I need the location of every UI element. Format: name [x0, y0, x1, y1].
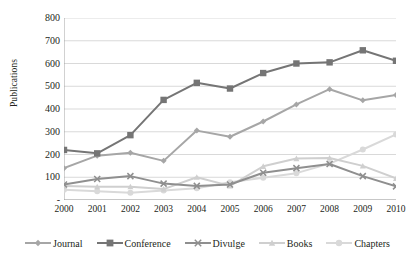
y-axis-title: Publications — [9, 33, 19, 133]
plot-area — [64, 18, 396, 200]
series-journal — [64, 86, 396, 171]
legend-label: Chapters — [353, 238, 390, 249]
y-axis-tick-labels: -100200300400500600700800 — [22, 0, 60, 210]
x-tick-label: 2003 — [154, 203, 173, 215]
legend-item-conference[interactable]: Conference — [97, 237, 171, 249]
x-axis-tick-labels: 2000200120022003200420052006200720082009… — [64, 203, 396, 219]
legend-swatch-square-icon — [97, 237, 123, 249]
series-books — [64, 155, 396, 192]
legend-item-journal[interactable]: Journal — [25, 237, 82, 249]
legend-label: Journal — [52, 238, 82, 249]
x-tick-label: 2007 — [287, 203, 306, 215]
legend-swatch-diamond-icon — [25, 237, 51, 249]
x-tick-label: 2000 — [55, 203, 74, 215]
legend-swatch-x-icon — [185, 237, 211, 249]
y-tick-label: 700 — [22, 36, 60, 46]
x-tick-label: 2002 — [121, 203, 140, 215]
gridlines — [64, 18, 396, 200]
x-tick-label: 2008 — [320, 203, 339, 215]
legend-swatch-triangle-icon — [259, 237, 285, 249]
legend-item-divulge[interactable]: Divulge — [185, 237, 245, 249]
x-tick-label: 2006 — [254, 203, 273, 215]
publications-line-chart: Publications -100200300400500600700800 2… — [0, 0, 415, 264]
chart-legend: JournalConferenceDivulgeBooksChapters — [0, 232, 415, 254]
legend-label: Divulge — [212, 238, 245, 249]
x-tick-label: 2010 — [387, 203, 406, 215]
legend-swatch-circle-icon — [326, 237, 352, 249]
legend-label: Books — [286, 238, 313, 249]
y-tick-label: 600 — [22, 59, 60, 69]
x-tick-label: 2004 — [187, 203, 206, 215]
chart-canvas — [64, 18, 396, 200]
y-tick-label: 300 — [22, 127, 60, 137]
x-tick-label: 2009 — [353, 203, 372, 215]
x-tick-label: 2001 — [88, 203, 107, 215]
legend-item-books[interactable]: Books — [259, 237, 313, 249]
y-tick-label: 200 — [22, 150, 60, 160]
y-tick-label: 500 — [22, 81, 60, 91]
y-tick-label: 100 — [22, 172, 60, 182]
y-tick-label: 400 — [22, 104, 60, 114]
legend-label: Conference — [124, 238, 171, 249]
legend-item-chapters[interactable]: Chapters — [326, 237, 390, 249]
series-divulge — [64, 161, 396, 189]
y-tick-label: 800 — [22, 13, 60, 23]
x-tick-label: 2005 — [221, 203, 240, 215]
